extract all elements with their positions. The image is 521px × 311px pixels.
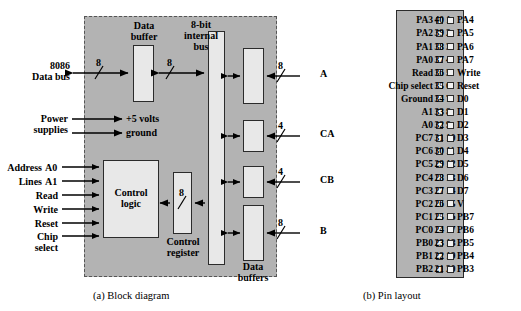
pin-name-22: PB4 bbox=[457, 250, 474, 263]
pin-name-21: PB3 bbox=[457, 263, 474, 276]
label-data-buffer: Data buffer bbox=[113, 20, 175, 42]
pin-pad-icon bbox=[447, 30, 454, 37]
pin-name-29: D5 bbox=[457, 158, 469, 171]
width-external-data-bus: 8 bbox=[96, 57, 101, 68]
label-control-logic-line2: logic bbox=[103, 198, 159, 209]
signal-chip-select-line1: Chip bbox=[0, 231, 58, 242]
label-control-logic-line1: Control bbox=[103, 187, 159, 198]
pin-name-37: PA7 bbox=[457, 54, 474, 67]
block-data-buffer-cb bbox=[243, 166, 264, 198]
pin-number-39: 39 bbox=[396, 27, 444, 40]
pin-number-24: 24 bbox=[396, 224, 444, 237]
pin-number-32: 32 bbox=[396, 119, 444, 132]
label-data-buffers: Data buffers bbox=[224, 261, 282, 283]
signal-power-supplies: Power supplies bbox=[0, 113, 68, 135]
pin-pad-icon bbox=[447, 187, 454, 194]
pin-number-22: 22 bbox=[396, 250, 444, 263]
pin-layout-panel: PA31PA22PA13PA04Read5Chip select6Ground7… bbox=[300, 0, 521, 311]
figure-8255-ppi: data buffer --> internal bus --> data bbox=[0, 0, 521, 311]
pin-pad-icon bbox=[447, 240, 454, 247]
pin-pad-icon bbox=[447, 161, 454, 168]
block-internal-bus bbox=[208, 31, 225, 265]
pin-number-30: 30 bbox=[396, 145, 444, 158]
pin-right-35: 35Reset bbox=[396, 80, 521, 93]
caption-pin-layout: (b) Pin layout bbox=[363, 290, 421, 301]
pin-number-34: 34 bbox=[396, 93, 444, 106]
signal-8086-data-bus: 8086 Data bus bbox=[0, 60, 70, 82]
pin-pad-icon bbox=[447, 69, 454, 76]
pin-pad-icon bbox=[447, 17, 454, 24]
pin-name-36: Write bbox=[457, 67, 481, 80]
pin-pad-icon bbox=[447, 226, 454, 233]
signal-read: Read bbox=[0, 190, 58, 201]
pin-name-28: D6 bbox=[457, 172, 469, 185]
pin-name-34: D0 bbox=[457, 93, 469, 106]
width-buffer-to-bus: 8 bbox=[167, 57, 172, 68]
pin-pad-icon bbox=[447, 174, 454, 181]
signal-a0: A0 bbox=[45, 162, 57, 173]
pin-name-31: D3 bbox=[457, 132, 469, 145]
pin-name-24: PB6 bbox=[457, 224, 474, 237]
signal-8086-line1: 8086 bbox=[0, 60, 70, 71]
signal-a1: A1 bbox=[45, 176, 57, 187]
signal-power-line1: Power bbox=[0, 113, 68, 124]
pin-pad-icon bbox=[447, 95, 454, 102]
label-plus-5-volts: +5 volts bbox=[126, 113, 159, 124]
pin-right-38: 38PA6 bbox=[396, 40, 521, 53]
pin-right-32: 32D2 bbox=[396, 119, 521, 132]
pin-name-23: PB5 bbox=[457, 237, 474, 250]
pin-right-28: 28D6 bbox=[396, 171, 521, 184]
label-data-buffer-line1: Data bbox=[113, 20, 175, 31]
pin-number-35: 35 bbox=[396, 80, 444, 93]
pin-right-26: 26V bbox=[396, 197, 521, 210]
pin-name-32: D2 bbox=[457, 119, 469, 132]
block-data-buffer-ca bbox=[243, 120, 264, 152]
width-port-cb: 4 bbox=[278, 166, 283, 177]
pin-right-37: 37PA7 bbox=[396, 53, 521, 66]
label-data-buffers-line1: Data bbox=[224, 261, 282, 272]
pin-number-26: 26 bbox=[396, 198, 444, 211]
pin-right-25: 25PB7 bbox=[396, 211, 521, 224]
pin-right-22: 22PB4 bbox=[396, 250, 521, 263]
pin-name-35: Reset bbox=[457, 80, 479, 93]
signal-write: Write bbox=[0, 204, 58, 215]
pin-number-29: 29 bbox=[396, 158, 444, 171]
width-control-register: 8 bbox=[179, 187, 184, 198]
pin-number-36: 36 bbox=[396, 67, 444, 80]
label-internal-bus-line3: bus bbox=[170, 41, 232, 52]
pin-number-33: 33 bbox=[396, 106, 444, 119]
pin-pad-icon bbox=[447, 148, 454, 155]
signal-address-word: Address bbox=[0, 162, 42, 173]
pin-right-23: 23PB5 bbox=[396, 237, 521, 250]
pin-pad-icon bbox=[447, 135, 454, 142]
block-data-buffer bbox=[133, 45, 154, 102]
width-port-a: 8 bbox=[278, 60, 283, 71]
pin-right-31: 31D3 bbox=[396, 132, 521, 145]
label-internal-bus-line1: 8-bit bbox=[170, 19, 232, 30]
block-diagram-panel: data buffer --> internal bus --> data bbox=[0, 0, 300, 311]
pin-pad-icon bbox=[447, 213, 454, 220]
pin-right-40: 40PA4 bbox=[396, 14, 521, 27]
pin-number-23: 23 bbox=[396, 237, 444, 250]
pin-pad-icon bbox=[447, 253, 454, 260]
pin-name-26: V bbox=[457, 198, 464, 211]
pin-right-21: 21PB3 bbox=[396, 263, 521, 276]
pin-number-27: 27 bbox=[396, 185, 444, 198]
pin-name-25: PB7 bbox=[457, 211, 474, 224]
pin-number-38: 38 bbox=[396, 41, 444, 54]
signal-8086-line2: Data bus bbox=[0, 71, 70, 82]
pin-pad-icon bbox=[447, 56, 454, 63]
pin-right-34: 34D0 bbox=[396, 93, 521, 106]
pin-name-38: PA6 bbox=[457, 41, 474, 54]
pin-pad-icon bbox=[447, 122, 454, 129]
signal-lines-word: Lines bbox=[0, 176, 42, 187]
pin-right-29: 29D5 bbox=[396, 158, 521, 171]
label-internal-bus-line2: internal bbox=[170, 30, 232, 41]
pin-pad-icon bbox=[447, 200, 454, 207]
pin-right-30: 30D4 bbox=[396, 145, 521, 158]
pin-name-39: PA5 bbox=[457, 27, 474, 40]
pin-number-25: 25 bbox=[396, 211, 444, 224]
pin-name-40: PA4 bbox=[457, 14, 474, 27]
pin-right-33: 33D1 bbox=[396, 106, 521, 119]
label-data-buffers-line2: buffers bbox=[224, 272, 282, 283]
